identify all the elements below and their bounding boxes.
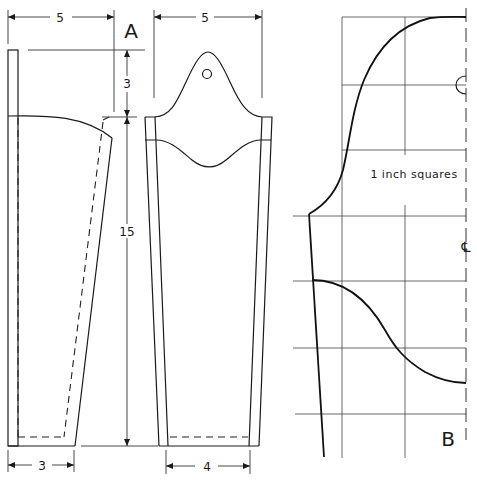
dim-side-top-width: 5 bbox=[8, 10, 114, 112]
back-wave-line bbox=[145, 140, 271, 167]
centerline-symbol: ℄ bbox=[461, 239, 471, 255]
dim-label-side-bottom: 3 bbox=[38, 459, 46, 473]
back-right-rail-inner bbox=[249, 117, 262, 446]
back-right-rail-outer bbox=[259, 117, 272, 446]
lower-scallop-curve bbox=[312, 280, 466, 383]
side-hidden-front bbox=[64, 122, 103, 437]
dim-back-bottom-width: 4 bbox=[166, 450, 250, 474]
part-a-label: A bbox=[124, 19, 138, 43]
woodworking-pattern-drawing: 5 A 3 15 3 bbox=[0, 0, 477, 482]
dim-back-top-width: 5 bbox=[154, 10, 262, 98]
side-top-curve bbox=[8, 116, 112, 138]
dim-label-back-top: 5 bbox=[201, 11, 209, 25]
side-front-edge bbox=[75, 138, 112, 446]
dim-label-overall-height: 15 bbox=[119, 225, 134, 239]
hanging-hole bbox=[203, 70, 212, 79]
dim-heights: 3 15 bbox=[28, 50, 158, 446]
bracket-top-curve bbox=[309, 17, 466, 214]
grid-scale-note: 1 inch squares bbox=[370, 168, 457, 181]
part-b-label: B bbox=[441, 427, 455, 451]
back-arch bbox=[155, 52, 262, 117]
grid-pattern bbox=[293, 8, 466, 458]
side-back-strip bbox=[8, 50, 18, 446]
back-piece bbox=[145, 52, 272, 446]
dim-label-bracket-height: 3 bbox=[123, 77, 131, 91]
dim-label-side-top: 5 bbox=[56, 11, 64, 25]
side-piece bbox=[8, 50, 112, 446]
dim-side-bottom-width: 3 bbox=[8, 450, 74, 473]
pattern-back-edge bbox=[309, 214, 324, 457]
dim-label-back-bottom: 4 bbox=[203, 460, 211, 474]
